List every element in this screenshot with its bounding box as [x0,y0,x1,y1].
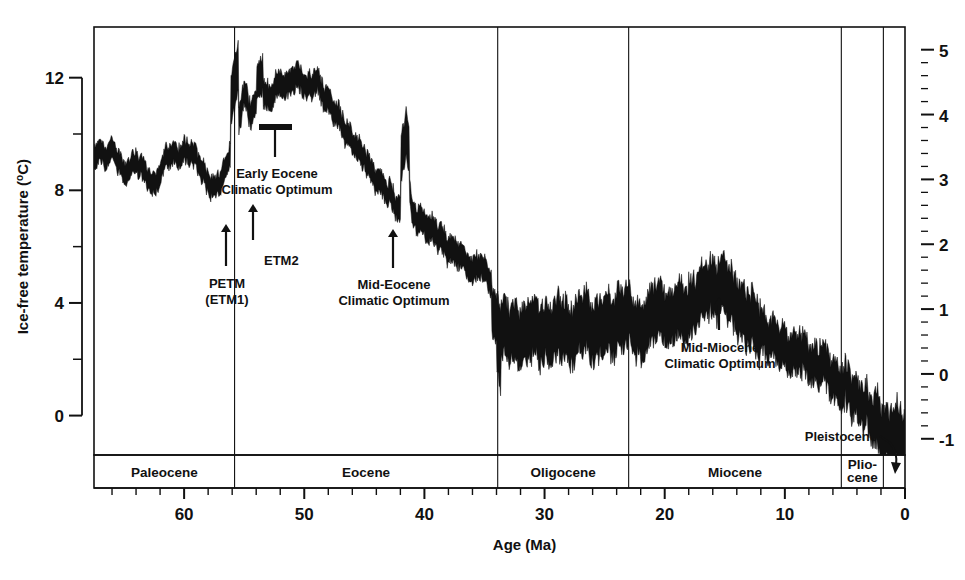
x-tick-label-40: 40 [415,505,434,524]
y-right-label-5: 5 [939,42,948,61]
annotation-mmco-line2: Climatic Optimum [664,356,775,371]
y-right-label-0: 0 [939,366,948,385]
x-tick-label-10: 10 [775,505,794,524]
y-right-label--1: -1 [939,431,954,450]
x-tick-label-20: 20 [655,505,674,524]
figure-root: PaleoceneEoceneOligoceneMiocenePlio-cene… [0,0,965,580]
epoch-label-paleocene: Paleocene [131,465,198,480]
epoch-label-pleistocene: Pleistocene [805,429,877,444]
y-right-label-1: 1 [939,301,948,320]
annotation-mmco-line1: Mid-Miocene [681,340,760,355]
x-tick-label-60: 60 [175,505,194,524]
annotation-eeco-line1: Early Eocene [236,166,318,181]
epoch-label-eocene: Eocene [342,465,391,480]
x-tick-label-30: 30 [535,505,554,524]
epoch-label-pliocene-line2: cene [847,470,878,485]
annotation-petm-line1: PETM [209,276,245,291]
annotation-petm-line2: (ETM1) [205,292,248,307]
y-right-label-4: 4 [939,107,949,126]
y-left-label-8: 8 [55,181,64,200]
epoch-label-miocene: Miocene [708,465,763,480]
annotation-meco-line2: Climatic Optimum [338,293,449,308]
x-tick-label-50: 50 [295,505,314,524]
annotation-etm2: ETM2 [264,253,299,268]
y-right-label-3: 3 [939,171,948,190]
y-left-label-4: 4 [55,294,65,313]
epoch-label-oligocene: Oligocene [531,465,597,480]
y-right-label-2: 2 [939,236,948,255]
chart-background [0,0,965,580]
cenozoic-climate-chart: PaleoceneEoceneOligoceneMiocenePlio-cene… [0,0,965,580]
y-left-label-0: 0 [55,407,64,426]
annotation-eeco-line2: Climatic Optimum [221,182,332,197]
bottom-axis-title: Age (Ma) [493,536,556,553]
annotation-meco-line1: Mid-Eocene [358,277,431,292]
y-left-label-12: 12 [45,69,64,88]
left-axis-title: Ice-free temperature (oC) [14,159,32,334]
x-tick-label-0: 0 [900,505,909,524]
